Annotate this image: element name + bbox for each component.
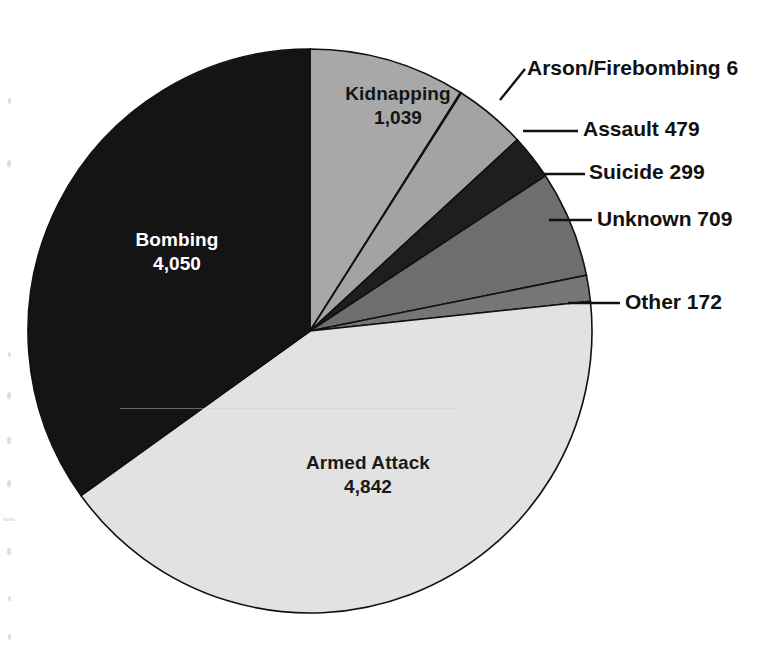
scan-artifact	[8, 634, 11, 640]
pie-chart-canvas	[0, 0, 779, 656]
leader-line-arson	[500, 69, 525, 100]
callout-label-other: Other 172	[625, 290, 722, 314]
callout-label-suicide: Suicide 299	[589, 160, 705, 184]
callout-label-unknown: Unknown 709	[597, 207, 732, 231]
scan-artifact	[3, 518, 15, 521]
scan-artifact	[8, 352, 11, 357]
scan-artifact	[7, 437, 11, 444]
pie-chart-figure: Bombing 4,050 Armed Attack 4,842 Kidnapp…	[0, 0, 779, 656]
scan-artifact	[7, 548, 11, 555]
scan-artifact	[8, 596, 11, 601]
pie-slices	[28, 49, 592, 613]
scan-artifact	[7, 392, 11, 399]
callout-label-assault: Assault 479	[583, 117, 700, 141]
scan-artifact	[7, 160, 11, 167]
callout-label-arson: Arson/Firebombing 6	[527, 56, 738, 80]
scan-artifact	[8, 98, 11, 104]
scan-artifact	[120, 408, 460, 409]
scan-artifact	[7, 480, 11, 487]
